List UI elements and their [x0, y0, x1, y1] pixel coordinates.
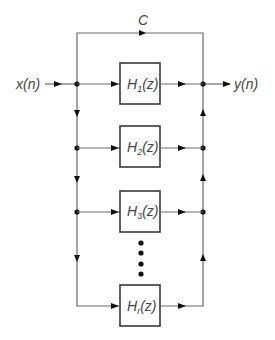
arrow-right-icon — [178, 303, 186, 309]
parallel-filter-diagram: C x(n) y(n) H1(z) — [0, 0, 275, 340]
input-label: x(n) — [15, 76, 40, 92]
output: y(n) — [203, 76, 258, 92]
up-arrow-icon — [200, 254, 206, 261]
block-h2-label: H2(z) — [127, 139, 158, 157]
arrow-right-icon — [178, 209, 186, 215]
up-arrow-icon — [200, 109, 206, 116]
up-arrow-icon — [200, 174, 206, 181]
down-arrow-icon — [74, 255, 80, 262]
input-bus — [74, 81, 119, 306]
block-hr-label: Hr(z) — [127, 298, 156, 316]
branch-h1: H1(z) — [77, 63, 203, 104]
arrow-right-icon — [111, 303, 119, 309]
input: x(n) — [15, 76, 77, 92]
block-h3-label: H3(z) — [127, 203, 158, 221]
output-label: y(n) — [233, 76, 258, 92]
branch-h3: H3(z) — [77, 191, 203, 232]
bypass-label: C — [138, 12, 149, 28]
block-h1-label: H1(z) — [127, 76, 158, 94]
branch-h2: H2(z) — [77, 126, 203, 167]
down-arrow-icon — [74, 176, 80, 183]
arrow-right-icon — [111, 81, 119, 87]
arrow-right-icon — [178, 145, 186, 151]
arrow-right-icon — [178, 81, 186, 87]
arrow-right-icon — [111, 145, 119, 151]
down-arrow-icon — [74, 110, 80, 117]
output-arrow-icon — [223, 81, 231, 87]
input-arrow-icon — [54, 81, 62, 87]
output-bus — [160, 81, 206, 306]
ellipsis-dots — [138, 240, 143, 276]
arrow-right-icon — [111, 209, 119, 215]
bypass-arrow-icon — [139, 30, 146, 36]
